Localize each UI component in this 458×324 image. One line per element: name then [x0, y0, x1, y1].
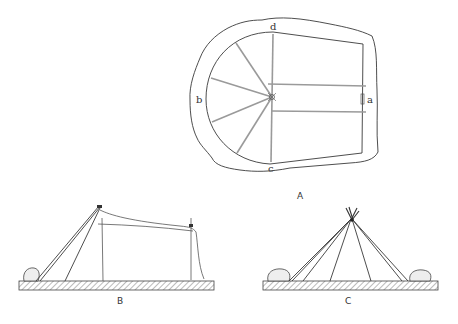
diagram-canvas: d b c a A B: [0, 0, 458, 324]
label-b: b: [196, 94, 202, 105]
panel-a-plan: d b c a A: [190, 18, 378, 201]
cross-pole-lower: [272, 111, 366, 112]
ground-bar-c: [263, 281, 438, 290]
label-c: c: [268, 163, 274, 174]
semicircle-arc: [206, 32, 273, 164]
center-tie-icon: [268, 93, 276, 101]
label-d: d: [270, 21, 277, 32]
converging-poles: [289, 219, 408, 281]
rect-top-edge: [273, 32, 363, 44]
caption-a: A: [297, 191, 304, 201]
rect-bottom-edge: [270, 153, 362, 164]
stone-c-right: [410, 270, 431, 281]
outer-boundary: [190, 18, 378, 171]
apex-tie-icon: [346, 207, 359, 222]
ground-bar-b: [19, 281, 214, 290]
caption-b: B: [117, 296, 123, 306]
cross-pole-upper: [268, 84, 366, 86]
caption-c: C: [345, 296, 351, 306]
rect-right-edge: [362, 44, 363, 153]
stone-b: [24, 268, 40, 281]
radiating-poles: [211, 43, 272, 153]
panel-c-front: C: [263, 207, 438, 306]
label-a: a: [367, 94, 373, 105]
stone-c-left: [268, 269, 290, 281]
panel-b-side: B: [19, 205, 214, 306]
